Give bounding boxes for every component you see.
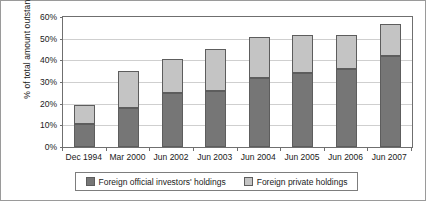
y-tick-mark: [60, 104, 63, 105]
x-tick-mark: [280, 147, 281, 151]
bar-segment-official[interactable]: [74, 124, 95, 147]
y-tick-label: 10%: [3, 120, 57, 130]
legend-item-private: Foreign private holdings: [244, 177, 348, 187]
gridline: [63, 39, 412, 40]
x-tick-mark: [411, 147, 412, 151]
x-tick-label: Jun 2003: [197, 152, 232, 162]
bar-segment-official[interactable]: [249, 78, 270, 147]
y-tick-label: 40%: [3, 55, 57, 65]
legend-label-private: Foreign private holdings: [257, 177, 348, 187]
y-tick-label: 30%: [3, 77, 57, 87]
chart-legend: Foreign official investors' holdings For…: [75, 172, 358, 191]
y-tick-label: 20%: [3, 99, 57, 109]
bar-stack[interactable]: [205, 17, 226, 147]
x-tick-mark: [149, 147, 150, 151]
x-tick-label: Jun 2005: [284, 152, 319, 162]
plot-area: 0%10%20%30%40%50%60%: [62, 16, 413, 148]
legend-swatch-official: [86, 177, 95, 186]
bar-segment-official[interactable]: [162, 93, 183, 147]
gridline: [63, 125, 412, 126]
x-tick-label: Jun 2004: [241, 152, 276, 162]
bar-segment-official[interactable]: [292, 73, 313, 147]
x-tick-label: Jun 2002: [154, 152, 189, 162]
y-tick-mark: [60, 17, 63, 18]
chart-figure: % of total amount outstanding 0%10%20%30…: [0, 0, 427, 202]
y-tick-label: 0%: [3, 142, 57, 152]
legend-swatch-private: [244, 177, 253, 186]
bar-segment-private[interactable]: [336, 35, 357, 69]
x-tick-mark: [62, 147, 63, 151]
bar-stack[interactable]: [162, 17, 183, 147]
bar-segment-private[interactable]: [74, 105, 95, 124]
x-tick-label: Dec 1994: [66, 152, 102, 162]
gridline: [63, 60, 412, 61]
gridline: [63, 82, 412, 83]
bar-segment-private[interactable]: [292, 35, 313, 72]
bar-segment-private[interactable]: [162, 59, 183, 94]
y-tick-label: 50%: [3, 34, 57, 44]
x-tick-mark: [237, 147, 238, 151]
bar-segment-official[interactable]: [336, 69, 357, 147]
bar-segment-official[interactable]: [380, 56, 401, 147]
bar-segment-private[interactable]: [118, 71, 139, 108]
y-tick-mark: [60, 82, 63, 83]
bar-stack[interactable]: [336, 17, 357, 147]
x-tick-mark: [193, 147, 194, 151]
bar-stack[interactable]: [249, 17, 270, 147]
x-tick-mark: [106, 147, 107, 151]
bar-stack[interactable]: [74, 17, 95, 147]
legend-item-official: Foreign official investors' holdings: [86, 177, 226, 187]
x-tick-mark: [324, 147, 325, 151]
gridline: [63, 104, 412, 105]
bar-segment-official[interactable]: [205, 91, 226, 147]
y-tick-mark: [60, 125, 63, 126]
bar-segment-private[interactable]: [205, 49, 226, 91]
x-tick-mark: [367, 147, 368, 151]
x-tick-label: Mar 2000: [109, 152, 145, 162]
bar-segment-official[interactable]: [118, 108, 139, 147]
x-tick-label: Jun 2006: [328, 152, 363, 162]
bar-segment-private[interactable]: [249, 37, 270, 78]
bar-stack[interactable]: [292, 17, 313, 147]
bar-stack[interactable]: [118, 17, 139, 147]
y-tick-mark: [60, 39, 63, 40]
bar-segment-private[interactable]: [380, 24, 401, 57]
x-tick-label: Jun 2007: [372, 152, 407, 162]
x-axis: Dec 1994Mar 2000Jun 2002Jun 2003Jun 2004…: [62, 147, 413, 171]
legend-label-official: Foreign official investors' holdings: [99, 177, 226, 187]
bar-stack[interactable]: [380, 17, 401, 147]
y-tick-label: 60%: [3, 12, 57, 22]
y-tick-mark: [60, 60, 63, 61]
